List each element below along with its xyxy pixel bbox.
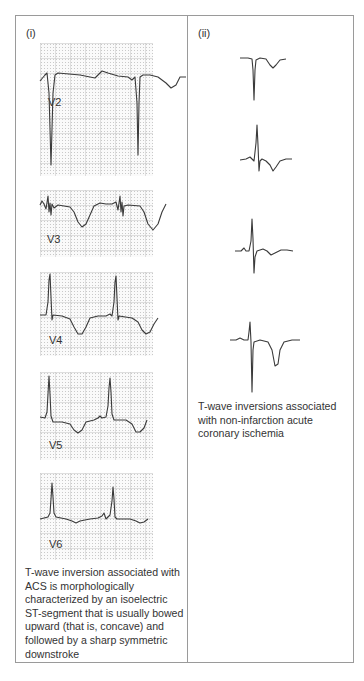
panel-i-label: (i) [26,27,36,39]
ecg-trace-v3 [40,190,153,257]
panel-i-caption: T-wave inversion associated with ACS is … [25,566,185,661]
ischemia-trace-1 [240,55,300,105]
ecg-trace-v5 [40,372,153,460]
ischemia-trace-2 [240,123,300,178]
ecg-trace-v6 [40,473,153,560]
ischemia-trace-4 [230,320,300,395]
panel-ii-label: (ii) [198,27,210,39]
panel-divider [187,15,188,663]
ecg-trace-v4 [40,272,153,356]
ischemia-trace-3 [235,217,300,277]
ecg-trace-v2 [40,43,153,176]
panel-ii-caption: T-wave inversions associated with non-in… [198,400,353,441]
